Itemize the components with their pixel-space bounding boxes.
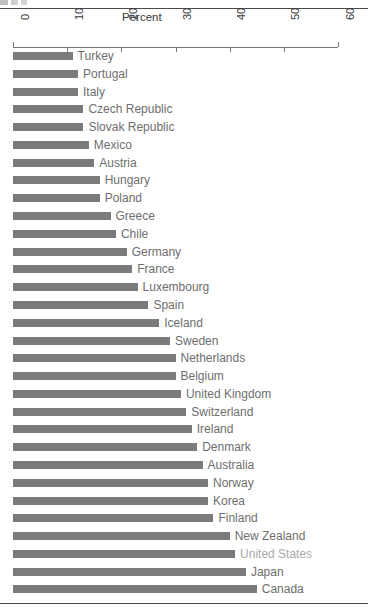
bar-category-label: Portugal xyxy=(83,68,128,81)
bar-category-label: United Kingdom xyxy=(186,388,271,401)
bar-row: New Zealand xyxy=(0,532,368,551)
bar-row: Japan xyxy=(0,568,368,587)
cropped-text-artifact xyxy=(0,0,30,5)
chart-bottom-border xyxy=(0,603,368,604)
bar-category-label: New Zealand xyxy=(235,530,306,543)
bar xyxy=(13,301,148,309)
bar-row: United Kingdom xyxy=(0,390,368,409)
bar xyxy=(13,425,192,433)
bar-category-label: Turkey xyxy=(78,50,114,63)
bar xyxy=(13,212,111,220)
bar xyxy=(13,194,100,202)
x-tick-mark-30 xyxy=(176,47,177,52)
bar-row: Greece xyxy=(0,212,368,231)
bar-category-label: Poland xyxy=(105,192,142,205)
bar-row: Portugal xyxy=(0,70,368,89)
bar-category-label: Hungary xyxy=(105,174,150,187)
bar-category-label: Chile xyxy=(121,228,148,241)
x-tick-mark-0 xyxy=(13,42,14,47)
bar xyxy=(13,354,176,362)
bar-row: Belgium xyxy=(0,372,368,391)
bar-category-label: Spain xyxy=(153,299,184,312)
bar xyxy=(13,52,73,60)
x-tick-mark-40 xyxy=(230,47,231,52)
bar xyxy=(13,585,257,593)
bar-category-label: Luxembourg xyxy=(143,281,210,294)
bar-row: Austria xyxy=(0,159,368,178)
bar-category-label: Belgium xyxy=(181,370,224,383)
bar xyxy=(13,70,78,78)
bar xyxy=(13,443,197,451)
bar-category-label: Mexico xyxy=(94,139,132,152)
bar-category-label: France xyxy=(137,263,174,276)
bar-row: Czech Republic xyxy=(0,105,368,124)
bar xyxy=(13,390,181,398)
bar-row: Ireland xyxy=(0,425,368,444)
bar-category-label: Austria xyxy=(99,157,136,170)
bar-row: Mexico xyxy=(0,141,368,160)
bar xyxy=(13,230,116,238)
bar-row: United States xyxy=(0,550,368,569)
bar xyxy=(13,159,94,167)
bar-category-label: Netherlands xyxy=(181,352,246,365)
bar-row: Chile xyxy=(0,230,368,249)
bar-row: Finland xyxy=(0,514,368,533)
bar-category-label: Australia xyxy=(208,459,255,472)
bar xyxy=(13,265,132,273)
bar-category-label: Italy xyxy=(83,86,105,99)
bar-category-label: Germany xyxy=(132,246,181,259)
bar xyxy=(13,337,170,345)
bar xyxy=(13,514,213,522)
bar xyxy=(13,123,83,131)
bar-row: Denmark xyxy=(0,443,368,462)
bar-category-label: Canada xyxy=(262,583,304,596)
bar-category-label: Switzerland xyxy=(191,406,253,419)
bar-row: Korea xyxy=(0,497,368,516)
bar-row: Australia xyxy=(0,461,368,480)
bar-row: Poland xyxy=(0,194,368,213)
bar xyxy=(13,372,176,380)
bar-row: Italy xyxy=(0,88,368,107)
bar-chart: Percent 0102030405060 TurkeyPortugalItal… xyxy=(0,0,368,615)
bar-category-label: Norway xyxy=(213,477,254,490)
bar-row: Hungary xyxy=(0,176,368,195)
bar xyxy=(13,532,230,540)
x-tick-mark-60 xyxy=(338,42,339,47)
bar xyxy=(13,408,186,416)
bar xyxy=(13,88,78,96)
bar-category-label: Iceland xyxy=(164,317,203,330)
bar xyxy=(13,461,203,469)
bar-row: Slovak Republic xyxy=(0,123,368,142)
bar xyxy=(13,248,127,256)
bar xyxy=(13,141,89,149)
bar-category-label: Korea xyxy=(213,495,245,508)
bar-row: Switzerland xyxy=(0,408,368,427)
bar-row: Canada xyxy=(0,585,368,604)
bar-row: Norway xyxy=(0,479,368,498)
bar xyxy=(13,568,246,576)
bar xyxy=(13,176,100,184)
x-tick-mark-10 xyxy=(67,47,68,52)
bar xyxy=(13,497,208,505)
x-tick-mark-50 xyxy=(284,47,285,52)
bar-category-label: Greece xyxy=(116,210,155,223)
bar-category-label: Sweden xyxy=(175,335,218,348)
bar-row: Turkey xyxy=(0,52,368,71)
bar-category-label: Czech Republic xyxy=(88,103,172,116)
bar xyxy=(13,283,138,291)
bar-category-label: Finland xyxy=(218,512,257,525)
bar xyxy=(13,550,235,558)
x-tick-mark-20 xyxy=(121,47,122,52)
bar xyxy=(13,319,159,327)
bar-row: Germany xyxy=(0,248,368,267)
bar-category-label: Ireland xyxy=(197,423,234,436)
bar-category-label: Japan xyxy=(251,566,284,579)
bar xyxy=(13,105,83,113)
bar xyxy=(13,479,208,487)
bar-category-label: Denmark xyxy=(202,441,251,454)
bar-category-label: United States xyxy=(240,548,312,561)
bar-category-label: Slovak Republic xyxy=(88,121,174,134)
